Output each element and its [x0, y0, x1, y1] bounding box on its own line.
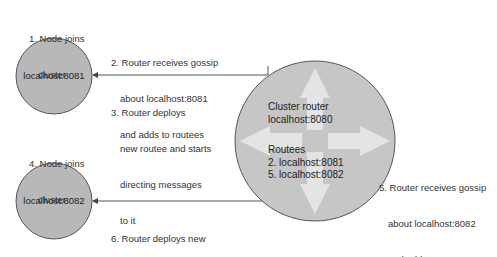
routee-item: 5. localhost:8082: [268, 169, 344, 182]
node-8081-join-label: 1. Node joins cluster: [29, 9, 84, 93]
label-line: 6. Router deploys new: [111, 233, 230, 245]
node-8082-join-label: 4. Node joins cluster: [29, 134, 84, 218]
label-line: directing messages: [111, 179, 211, 191]
label-line: 3. Router deploys: [111, 107, 211, 119]
label-line: cluster: [29, 194, 84, 206]
router-title: Cluster router: [268, 101, 333, 114]
routee-item: 2. localhost:8081: [268, 157, 344, 170]
label-line: new routee and starts: [111, 143, 211, 155]
label-line: 5. Router receives gossip: [379, 182, 486, 194]
label-line: 1. Node joins: [29, 33, 84, 45]
routees-label: Routees: [268, 144, 344, 157]
label-line: 2. Router receives gossip: [111, 57, 218, 69]
step-6-label: 6. Router deploys new routee and starts …: [111, 209, 230, 257]
label-line: cluster: [29, 69, 84, 81]
router-routees: Routees 2. localhost:8081 5. localhost:8…: [268, 144, 344, 182]
label-line: 4. Node joins: [29, 158, 84, 170]
step-5-label: 5. Router receives gossip about localhos…: [379, 158, 486, 257]
router-address: localhost:8080: [268, 114, 333, 127]
router-info: Cluster router localhost:8080: [268, 101, 333, 126]
label-line: about localhost:8082: [379, 218, 486, 230]
